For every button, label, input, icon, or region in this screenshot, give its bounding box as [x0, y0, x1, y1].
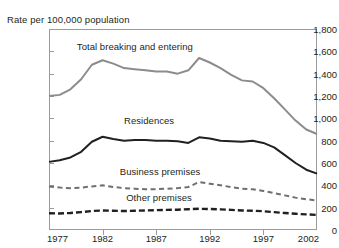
series-label-business-premises: Business premises	[120, 166, 201, 177]
chart-container: Rate per 100,000 population 1,8001,6001,…	[0, 0, 339, 248]
series-label-residences: Residences	[124, 115, 174, 126]
series-label-total-breaking-and-entering: Total breaking and entering	[77, 41, 193, 52]
series-line	[49, 209, 317, 215]
series-label-other-premises: Other premises	[126, 192, 192, 203]
series-line	[49, 58, 317, 134]
